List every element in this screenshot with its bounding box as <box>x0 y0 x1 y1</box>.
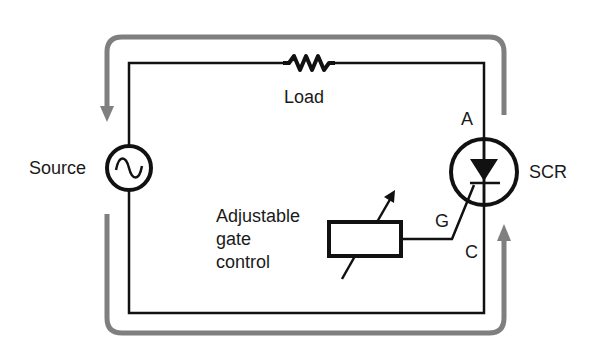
ac-source-icon <box>107 146 151 190</box>
load-resistor-icon <box>283 56 335 70</box>
anode-label: A <box>461 108 473 130</box>
gate-label: G <box>435 210 449 232</box>
circuit-diagram <box>0 0 596 355</box>
wire-scr-bottom <box>129 190 484 313</box>
scr-icon <box>451 139 517 205</box>
load-label: Load <box>284 86 324 108</box>
wire-top-left <box>129 63 283 146</box>
gate-control-icon <box>329 190 401 279</box>
source-label: Source <box>29 157 86 179</box>
scr-label: SCR <box>529 161 567 183</box>
cathode-label: C <box>465 241 478 263</box>
gate-control-label-line3: control <box>216 251 270 273</box>
gate-control-label-line1: Adjustable <box>216 205 300 227</box>
flow-arrowhead-down-icon <box>100 106 114 122</box>
current-flow-path <box>107 37 504 333</box>
flow-arrowhead-up-icon <box>497 224 511 241</box>
gate-control-label-line2: gate <box>216 228 251 250</box>
